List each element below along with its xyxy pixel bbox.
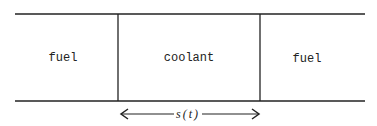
region-label-fuel-left: fuel bbox=[49, 51, 78, 65]
region-label-fuel-right: fuel bbox=[293, 52, 322, 66]
region-label-coolant: coolant bbox=[164, 51, 214, 65]
dimension-label: s(t) bbox=[174, 107, 202, 122]
